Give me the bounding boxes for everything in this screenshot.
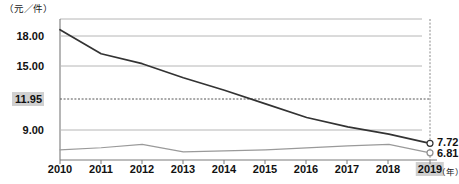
series2-line bbox=[60, 144, 430, 152]
chart-container: （元／件） 18.00 15.00 11.95 9.00 2010 2011 2… bbox=[0, 0, 459, 184]
series1-line bbox=[60, 30, 430, 144]
series1-end-marker bbox=[427, 140, 433, 146]
plot-area bbox=[0, 0, 459, 184]
x-axis-ticks bbox=[60, 160, 430, 164]
series2-end-marker bbox=[427, 150, 433, 156]
